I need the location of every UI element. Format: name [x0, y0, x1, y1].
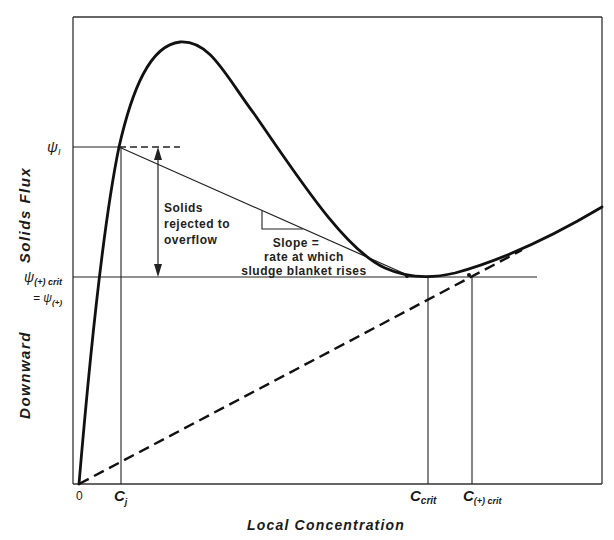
- solids-flux-diagram: Solids Flux Downward ψI ψ(+) crit = ψ(+)…: [0, 0, 614, 540]
- c-crit-label: Ccrit: [410, 487, 437, 506]
- x-axis-label: Local Concentration: [247, 517, 405, 533]
- rejected-note-line2: rejected to: [164, 217, 230, 231]
- c-j-label: Cj: [114, 487, 128, 507]
- min-point-marker: [405, 274, 409, 278]
- psi-i-label: ψI: [47, 138, 61, 157]
- slope-note-line2: rate at which: [264, 250, 344, 264]
- underflow-operating-line: [79, 250, 522, 484]
- rejected-note-line3: overflow: [164, 233, 218, 247]
- slope-note-line1: Slope =: [273, 236, 320, 250]
- rejected-note-line1: Solids: [164, 201, 203, 215]
- psi-crit-label: ψ(+) crit: [24, 269, 63, 287]
- origin-label: 0: [76, 489, 83, 503]
- y-axis-label-bottom: Downward: [16, 331, 33, 419]
- psi-plus-label: = ψ(+): [33, 291, 62, 307]
- c-plus-crit-label: C(+) crit: [463, 487, 503, 506]
- tangent-point-marker: [467, 273, 471, 277]
- slope-note-line3: sludge blanket rises: [241, 264, 366, 278]
- y-axis-label-top: Solids Flux: [16, 167, 33, 264]
- rejected-solids-arrow: [154, 147, 162, 277]
